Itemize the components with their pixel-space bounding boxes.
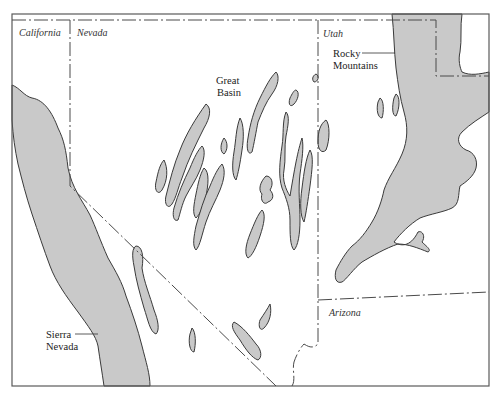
label-great-basin-2: Basin	[217, 87, 242, 98]
basin-range-17	[393, 94, 399, 116]
label-arizona: Arizona	[328, 307, 361, 318]
label-utah: Utah	[323, 28, 343, 39]
basin-range-22	[259, 304, 271, 329]
label-rocky-1: Rocky	[333, 48, 361, 59]
basin-range-6	[221, 138, 227, 154]
basin-range-12	[246, 210, 264, 258]
basin-range-15	[313, 74, 318, 82]
basin-range-1	[155, 160, 166, 192]
basin-range-7	[233, 118, 244, 180]
label-sierra-1: Sierra	[46, 329, 71, 340]
label-california: California	[19, 27, 61, 38]
basin-range-8	[247, 72, 278, 153]
basin-range-21	[232, 322, 260, 360]
basin-range-9	[289, 90, 298, 106]
basin-range-11	[260, 176, 273, 203]
basin-range-10	[280, 112, 303, 250]
label-nevada: Nevada	[76, 27, 108, 38]
border-utah-arizona	[318, 292, 489, 300]
map-canvas: California Nevada Utah Arizona Great Bas…	[0, 0, 503, 394]
basin-range-20	[189, 328, 195, 352]
basin-range-14	[318, 120, 329, 152]
basin-range-16	[377, 98, 383, 118]
basin-range-13	[301, 150, 313, 222]
label-great-basin-1: Great	[216, 75, 239, 86]
sierra-nevada-range	[12, 85, 150, 386]
label-sierra-2: Nevada	[46, 341, 78, 352]
label-rocky-2: Mountains	[333, 60, 378, 71]
